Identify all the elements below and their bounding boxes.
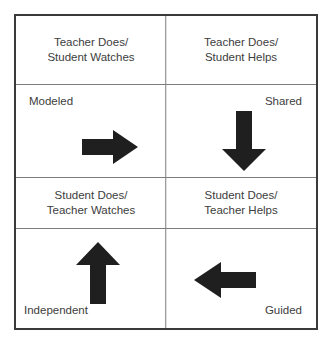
cell-modeled: Modeled — [16, 84, 166, 177]
arrow-up-icon — [76, 242, 120, 304]
cell-teacher-does-student-watches: Teacher Does/ Student Watches — [16, 16, 166, 84]
cell-student-does-teacher-helps: Student Does/ Teacher Helps — [166, 177, 316, 228]
header-label-top-left: Teacher Does/ Student Watches — [47, 35, 134, 65]
horizontal-divider-1 — [16, 84, 316, 85]
arrow-right-icon — [82, 130, 138, 164]
arrow-down-icon — [222, 111, 266, 171]
stage-label-modeled: Modeled — [29, 94, 73, 108]
arrow-left-icon — [194, 262, 256, 298]
cell-teacher-does-student-helps: Teacher Does/ Student Helps — [166, 16, 316, 84]
vertical-divider — [165, 16, 166, 328]
cell-guided: Guided — [166, 228, 316, 328]
stage-label-shared: Shared — [265, 94, 302, 108]
header-label-top-right: Teacher Does/ Student Helps — [204, 35, 278, 65]
cell-student-does-teacher-watches: Student Does/ Teacher Watches — [16, 177, 166, 228]
horizontal-divider-3 — [16, 228, 316, 229]
cell-independent: Independent — [16, 228, 166, 328]
clipped-page-text-above-figure — [0, 0, 332, 3]
header-label-bottom-right: Student Does/ Teacher Helps — [204, 188, 278, 218]
header-label-bottom-left: Student Does/ Teacher Watches — [47, 188, 135, 218]
quadrant-grid: Teacher Does/ Student Watches Teacher Do… — [14, 14, 318, 330]
stage-label-guided: Guided — [265, 303, 302, 317]
horizontal-divider-2 — [16, 177, 316, 178]
stage-label-independent: Independent — [24, 303, 88, 317]
cell-shared: Shared — [166, 84, 316, 177]
